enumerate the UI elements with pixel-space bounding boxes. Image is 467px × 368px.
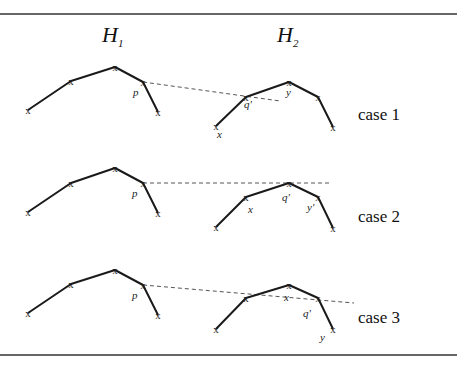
vertex-x-marker: x [155,106,161,118]
h1-hull-chain [28,168,158,213]
vertex-x-marker: x [213,221,219,233]
vertex-x-marker: x [330,121,336,133]
vertex-x-marker: x [213,323,219,335]
vertex-x-marker: x [315,91,321,103]
h2-hull-chain [216,82,333,127]
point-label: x [216,128,222,140]
vertex-x-marker: x [25,206,31,218]
vertex-x-marker: x [315,191,321,203]
vertex-x-marker: x [112,162,118,174]
point-label: q' [303,307,312,319]
point-label: p [131,187,138,199]
vertex-x-marker: x [68,177,74,189]
vertex-x-marker: x [286,177,292,189]
vertex-x-marker: x [68,278,74,290]
h1-hull-chain [28,67,158,112]
vertex-x-marker: x [155,207,161,219]
vertex-x-marker: x [243,292,249,304]
h2-header: H2 [276,22,299,49]
case-label: case 1 [358,105,400,124]
h1-hull-chain [28,270,158,315]
vertex-x-marker: x [112,264,118,276]
vertex-x-marker: x [25,307,31,319]
vertex-x-marker: x [25,104,31,116]
point-label: q' [282,191,291,203]
case-1: xxxxxxxxxxpq'yxcase 1 [25,61,400,140]
point-label: y [285,86,291,98]
h1-header: H1 [101,22,123,49]
h2-hull-chain [216,183,333,228]
point-label: p [131,289,138,301]
point-label: q' [244,98,253,110]
vertex-x-marker: x [330,222,336,234]
vertex-x-marker: x [330,323,336,335]
vertex-x-marker: x [112,61,118,73]
vertex-x-marker: x [68,75,74,87]
case-label: case 2 [358,207,400,226]
point-label: y' [306,201,315,213]
point-label: x [247,203,253,215]
case-2: xxxxxxxxxxpxq'y'case 2 [25,162,400,234]
convex-hull-cases-diagram: H1 H2 xxxxxxxxxxpq'yxcase 1xxxxxxxxxxpxq… [0,0,467,368]
cases-group: xxxxxxxxxxpq'yxcase 1xxxxxxxxxxpxq'y'cas… [25,61,400,343]
vertex-x-marker: x [315,292,321,304]
vertex-x-marker: x [140,177,146,189]
point-label: p [132,86,139,98]
vertex-x-marker: x [286,279,292,291]
case-3: xxxxxxxxxxpxq'ycase 3 [25,264,400,343]
point-label: y [319,331,325,343]
vertex-x-marker: x [140,279,146,291]
vertex-x-marker: x [155,309,161,321]
vertex-x-marker: x [243,191,249,203]
point-label: x [283,291,289,303]
case-label: case 3 [358,308,400,327]
vertex-x-marker: x [140,76,146,88]
